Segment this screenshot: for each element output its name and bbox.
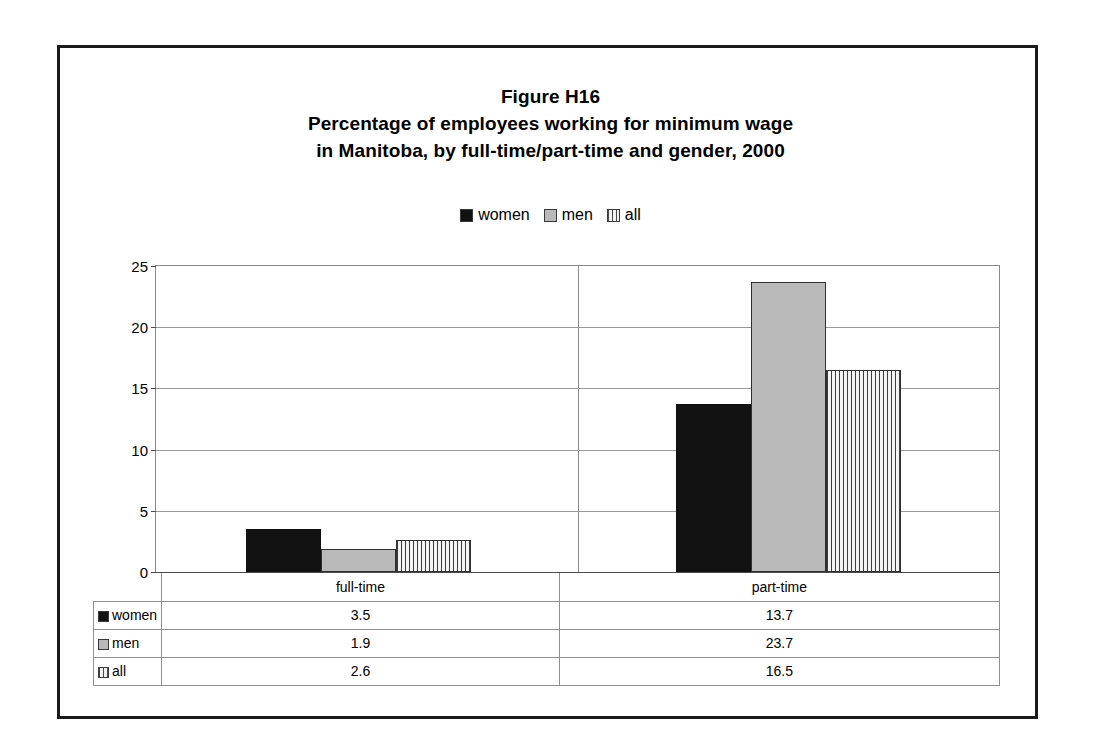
solid-gray-swatch-icon [544, 209, 557, 222]
legend-label-men: men [562, 206, 593, 224]
table-cell-women-part-time: 13.7 [559, 601, 999, 629]
legend-item-women[interactable]: women [460, 206, 530, 224]
table-cell-all-part-time: 16.5 [559, 657, 999, 685]
y-axis-tick-label: 15 [131, 380, 148, 397]
table-row: men 1.9 23.7 [94, 629, 1000, 657]
y-axis-tick-mark [151, 266, 156, 267]
chart-plot-area: 0510152025 [155, 265, 1000, 573]
chart-title-line-3: in Manitoba, by full-time/part-time and … [60, 137, 1041, 164]
table-key-label-all: all [112, 663, 126, 679]
table-key-women: women [94, 601, 162, 629]
y-axis-tick-label: 5 [140, 502, 148, 519]
table-row: women 3.5 13.7 [94, 601, 1000, 629]
vertical-hatch-swatch-icon [607, 209, 620, 222]
figure-page: Figure H16 Percentage of employees worki… [0, 0, 1095, 755]
y-axis-tick-label: 25 [131, 258, 148, 275]
y-axis-tick-mark [151, 327, 156, 328]
bar-women-full-time [246, 529, 321, 572]
legend-item-men[interactable]: men [544, 206, 593, 224]
table-row: all 2.6 16.5 [94, 657, 1000, 685]
gridline [156, 327, 999, 328]
y-axis-tick-label: 20 [131, 319, 148, 336]
chart-title-line-1: Figure H16 [60, 83, 1041, 110]
legend-item-all[interactable]: all [607, 206, 641, 224]
chart-data-table: full-time part-time women 3.5 13.7 men 1… [93, 573, 1000, 686]
table-cell-men-part-time: 23.7 [559, 629, 999, 657]
table-header-part-time: part-time [559, 573, 999, 601]
y-axis-tick-mark [151, 511, 156, 512]
category-group-divider [578, 266, 579, 572]
table-key-label-men: men [112, 635, 139, 651]
table-cell-all-full-time: 2.6 [162, 657, 560, 685]
chart-title-block: Figure H16 Percentage of employees worki… [60, 83, 1041, 164]
table-header-row: full-time part-time [94, 573, 1000, 601]
table-key-all: all [94, 657, 162, 685]
table-cell-men-full-time: 1.9 [162, 629, 560, 657]
bar-all-part-time [826, 370, 901, 572]
solid-black-swatch-icon [460, 209, 473, 222]
figure-border-frame: Figure H16 Percentage of employees worki… [57, 45, 1038, 719]
legend-label-women: women [478, 206, 530, 224]
table-key-men: men [94, 629, 162, 657]
y-axis-tick-mark [151, 450, 156, 451]
bar-men-full-time [321, 549, 396, 572]
solid-black-swatch-icon [98, 611, 109, 622]
bar-all-full-time [396, 540, 471, 572]
bar-men-part-time [751, 282, 826, 572]
chart-legend: women men all [60, 206, 1041, 224]
table-header-full-time: full-time [162, 573, 560, 601]
solid-gray-swatch-icon [98, 639, 109, 650]
table-key-label-women: women [112, 607, 157, 623]
table-corner-cell [94, 573, 162, 601]
y-axis-tick-label: 10 [131, 441, 148, 458]
table-cell-women-full-time: 3.5 [162, 601, 560, 629]
legend-label-all: all [625, 206, 641, 224]
y-axis-tick-mark [151, 388, 156, 389]
bar-women-part-time [676, 404, 751, 572]
vertical-hatch-swatch-icon [98, 667, 109, 678]
chart-title-line-2: Percentage of employees working for mini… [60, 110, 1041, 137]
